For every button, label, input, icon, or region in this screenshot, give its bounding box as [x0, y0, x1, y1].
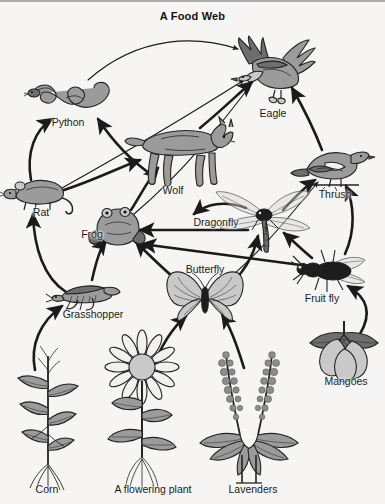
organism-eagle: [223, 34, 331, 112]
label-wolf: Wolf: [163, 184, 184, 196]
label-dragonfly: Dragonfly: [194, 216, 239, 228]
food-web-diagram: A Food Web: [0, 0, 385, 504]
label-flowering-plant: A flowering plant: [114, 483, 191, 495]
label-eagle: Eagle: [260, 107, 287, 119]
organism-fruit-fly: [289, 246, 369, 298]
organism-lavenders: [196, 339, 300, 491]
organism-corn: [10, 348, 86, 492]
label-thrush: Thrush: [319, 188, 352, 200]
label-frog: Frog: [81, 228, 103, 240]
label-butterfly: Butterfly: [186, 263, 225, 275]
label-lavenders: Lavenders: [228, 483, 277, 495]
label-mangoes: Mangoes: [324, 375, 367, 387]
label-grasshopper: Grasshopper: [63, 308, 124, 320]
organism-frog: [87, 201, 149, 251]
organism-wolf: [125, 115, 235, 191]
organism-grasshopper: [48, 276, 122, 312]
organism-python: [26, 68, 118, 120]
label-rat: Rat: [33, 206, 49, 218]
label-fruit-fly: Fruit fly: [305, 292, 339, 304]
label-python: Python: [52, 116, 85, 128]
organism-flowering-plant: [96, 339, 188, 491]
arrow-rat-to-python: [30, 119, 52, 180]
organism-butterfly: [162, 267, 248, 329]
label-corn: Corn: [36, 483, 59, 495]
